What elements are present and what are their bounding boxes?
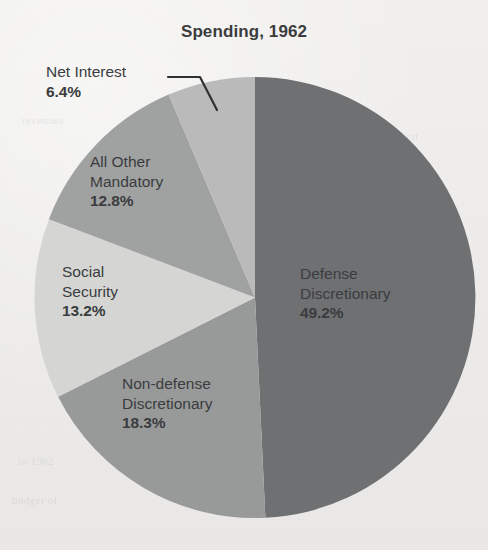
slice-label-net-interest: Net Interest 6.4% bbox=[46, 62, 126, 101]
slice-label-all-other-mandatory: All Other Mandatory 12.8% bbox=[90, 152, 163, 211]
slice-label-net-interest-value: 6.4% bbox=[46, 82, 126, 102]
slice-label-net-interest-name: Net Interest bbox=[46, 62, 126, 82]
slice-label-defense-discretionary-name-1: Defense bbox=[300, 264, 390, 284]
slice-label-all-other-mandatory-name-1: All Other bbox=[90, 152, 163, 172]
slice-label-non-defense-discretionary-name-2: Discretionary bbox=[122, 394, 212, 414]
slice-label-social-security: Social Security 13.2% bbox=[62, 262, 118, 321]
slice-label-non-defense-discretionary-name-1: Non-defense bbox=[122, 374, 212, 394]
slice-label-all-other-mandatory-name-2: Mandatory bbox=[90, 172, 163, 192]
slice-label-social-security-name-2: Security bbox=[62, 282, 118, 302]
slice-label-defense-discretionary: Defense Discretionary 49.2% bbox=[300, 264, 390, 323]
slice-label-non-defense-discretionary-value: 18.3% bbox=[122, 413, 212, 433]
slice-label-defense-discretionary-name-2: Discretionary bbox=[300, 284, 390, 304]
slice-label-defense-discretionary-value: 49.2% bbox=[300, 303, 390, 323]
slice-label-all-other-mandatory-value: 12.8% bbox=[90, 191, 163, 211]
slice-label-non-defense-discretionary: Non-defense Discretionary 18.3% bbox=[122, 374, 212, 433]
slice-label-social-security-name-1: Social bbox=[62, 262, 118, 282]
slice-label-social-security-value: 13.2% bbox=[62, 301, 118, 321]
